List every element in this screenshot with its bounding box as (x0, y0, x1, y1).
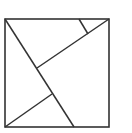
outer-square (5, 19, 109, 127)
lower-diagonal-line (5, 94, 52, 127)
dissected-square-diagram (0, 0, 132, 133)
long-diagonal-line (5, 19, 74, 127)
short-top-segment-line (79, 19, 88, 34)
upper-diagonal-line (37, 19, 109, 68)
